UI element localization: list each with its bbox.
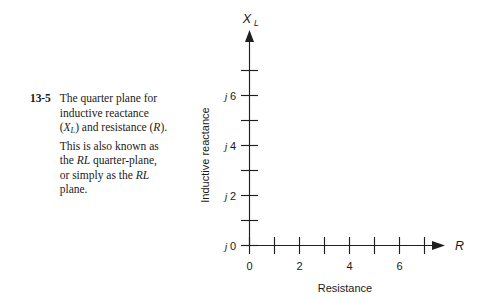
y-tick-label-j6-value: 6 [230, 90, 236, 102]
x-axis-symbol-label: R [455, 239, 464, 253]
y-axis-symbol-label: X [242, 12, 252, 26]
y-tick-label-j6: j6 [223, 90, 236, 102]
y-tick-label-j2-prefix: j [223, 190, 228, 202]
x-axis-arrowhead [432, 241, 445, 250]
y-tick-label-j4: j4 [223, 140, 236, 152]
y-tick-label-j4-prefix: j [223, 140, 228, 152]
y-tick-label-j2-value: 2 [230, 190, 236, 202]
x-tick-label-6: 6 [396, 260, 402, 272]
y-tick-label-j0: j0 [223, 240, 236, 252]
x-axis-title: Resistance [318, 282, 372, 294]
y-tick-label-j2: j2 [223, 190, 236, 202]
y-tick-label-j0-prefix: j [223, 240, 228, 252]
y-tick-label-j0-value: 0 [230, 240, 236, 252]
x-axis-tick-labels: 0 2 4 6 [246, 260, 402, 272]
x-tick-label-4: 4 [346, 260, 352, 272]
y-axis-symbol-subscript: L [254, 18, 259, 28]
x-tick-label-2: 2 [296, 260, 302, 272]
y-axis-arrowhead [245, 30, 254, 42]
y-tick-label-j6-prefix: j [223, 90, 228, 102]
y-axis-title: Inductive reactance [199, 107, 211, 202]
y-tick-label-j4-value: 4 [230, 140, 236, 152]
quarter-plane-diagram: j0 j2 j4 j6 0 2 4 6 X L R Resistance Ind… [0, 0, 497, 299]
y-axis-tick-labels: j0 j2 j4 j6 [223, 90, 236, 252]
x-tick-label-0: 0 [246, 260, 252, 272]
